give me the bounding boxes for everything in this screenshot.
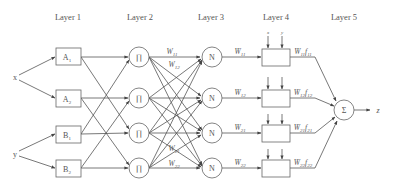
- rule-box-1: [262, 49, 290, 66]
- svg-text:∏: ∏: [136, 53, 143, 62]
- layer4-to-layer5-edges: [290, 57, 370, 168]
- layer2-nodes: ∏ ∏ ∏ ∏: [129, 47, 149, 178]
- normalized-weight-labels: W̄11 W̄12 W̄21 W̄22: [234, 47, 246, 168]
- layer4-x-label: x: [266, 30, 270, 35]
- svg-text:∏: ∏: [136, 129, 143, 138]
- svg-text:∏: ∏: [136, 164, 143, 173]
- svg-text:∏: ∏: [136, 94, 143, 103]
- svg-text:W̄11: W̄11: [235, 47, 246, 57]
- svg-text:W̄21: W̄21: [234, 123, 245, 133]
- product-node-2: ∏: [129, 88, 149, 108]
- anfis-diagram: Layer 1 Layer 2 Layer 3 Layer 4 Layer 5 …: [0, 0, 396, 188]
- layer4-nodes: [262, 49, 290, 177]
- product-node-1: ∏: [129, 47, 149, 67]
- rule-box-2: [262, 90, 290, 107]
- weight-w11: W11: [167, 47, 178, 57]
- node-a2: A2: [56, 90, 81, 107]
- norm-node-4: N: [202, 158, 222, 178]
- input-y-label: y: [13, 150, 17, 159]
- svg-text:N: N: [209, 129, 215, 138]
- svg-text:W̄22f22: W̄22f22: [294, 158, 313, 168]
- layer-5-label: Layer 5: [331, 12, 357, 22]
- svg-text:N: N: [209, 94, 215, 103]
- norm-node-2: N: [202, 88, 222, 108]
- layer1-nodes: A1 A2 B1 B2: [56, 48, 81, 177]
- node-b1: B1: [56, 126, 81, 143]
- weight-labels: W11 W12 W21 W22: [167, 47, 181, 169]
- rule-box-4: [262, 160, 290, 177]
- layer-4-label: Layer 4: [263, 12, 290, 22]
- layer-labels: Layer 1 Layer 2 Layer 3 Layer 4 Layer 5: [55, 12, 357, 22]
- svg-text:N: N: [209, 164, 215, 173]
- svg-text:N: N: [209, 53, 215, 62]
- rule-box-3: [262, 125, 290, 142]
- layer1-to-layer2-edges: [81, 57, 129, 168]
- output-z-label: z: [375, 106, 380, 115]
- node-a1: A1: [56, 48, 81, 65]
- layer4-y-label: y: [280, 30, 284, 35]
- weight-w21: W21: [168, 144, 179, 154]
- norm-node-3: N: [202, 123, 222, 143]
- svg-text:W̄12: W̄12: [234, 88, 246, 98]
- weight-w22: W22: [168, 159, 180, 169]
- sum-node: Σ: [334, 100, 354, 120]
- rule-output-labels: W̄11f11 W̄12f12 W̄21f21 W̄22f22: [294, 47, 313, 168]
- layer3-to-layer4-edges: [222, 57, 261, 168]
- product-node-3: ∏: [129, 123, 149, 143]
- input-x-label: x: [13, 73, 17, 82]
- norm-node-1: N: [202, 47, 222, 67]
- input-edges: [19, 57, 55, 168]
- svg-text:Σ: Σ: [342, 106, 347, 115]
- layer3-nodes: N N N N: [202, 47, 222, 178]
- layer-3-label: Layer 3: [198, 12, 224, 22]
- svg-text:W̄22: W̄22: [234, 158, 246, 168]
- product-node-4: ∏: [129, 158, 149, 178]
- svg-text:W̄11f11: W̄11f11: [294, 47, 312, 57]
- svg-text:W̄21f21: W̄21f21: [294, 123, 312, 133]
- layer-1-label: Layer 1: [55, 12, 81, 22]
- svg-text:W̄12f12: W̄12f12: [294, 88, 313, 98]
- layer-2-label: Layer 2: [127, 12, 153, 22]
- node-b2: B2: [56, 160, 81, 177]
- weight-w12: W12: [168, 60, 180, 70]
